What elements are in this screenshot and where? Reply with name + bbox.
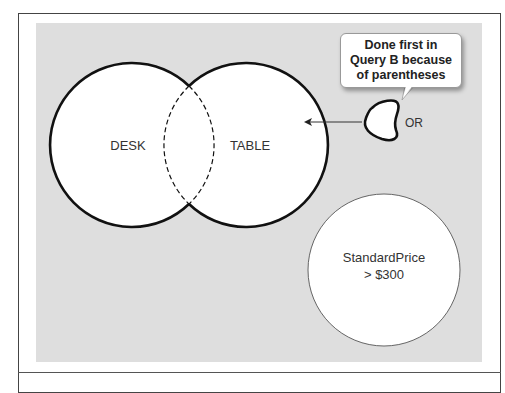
standard-price-line-1: StandardPrice xyxy=(343,249,425,266)
standard-price-label: StandardPrice > $300 xyxy=(343,249,425,283)
or-blob-icon xyxy=(365,101,399,141)
callout-line-3: of parentheses xyxy=(357,68,446,83)
callout-box: Done first in Query B because of parenth… xyxy=(340,33,462,88)
standard-price-line-2: > $300 xyxy=(343,266,425,283)
callout-line-1: Done first in xyxy=(365,38,438,53)
table-label: TABLE xyxy=(230,138,270,153)
desk-label: DESK xyxy=(110,138,145,153)
callout-tail xyxy=(402,86,414,100)
callout-line-2: Query B because xyxy=(350,53,452,68)
or-label: OR xyxy=(405,116,423,130)
